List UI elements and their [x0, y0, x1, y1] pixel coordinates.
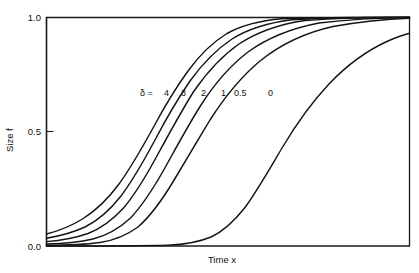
y-tick-label-1.0: 1.0 [28, 12, 41, 23]
curve-label-2: 2 [201, 88, 206, 98]
curve-label-4: 4 [164, 88, 169, 98]
y-tick-label-0.0: 0.0 [28, 241, 41, 252]
curve-label-0.5: 0.5 [234, 88, 247, 98]
x-axis-title-text: Time x [208, 254, 236, 265]
curve-label-delta-prefix: δ = [140, 88, 153, 98]
y-tick-marks [47, 18, 54, 247]
y-axis-title: Size f [4, 128, 15, 152]
curve-label-1: 1 [221, 88, 226, 98]
chart-figure: 1.0 0.5 0.0 Size f Time x δ = 4 3 2 1 [0, 0, 419, 273]
curve-group [47, 17, 410, 246]
y-tick-label-0.5: 0.5 [28, 126, 41, 137]
curve-label-0: 0 [268, 88, 273, 98]
curve-delta-2 [47, 17, 410, 241]
chart-svg: 1.0 0.5 0.0 Size f Time x δ = 4 3 2 1 [0, 0, 419, 273]
plot-frame [46, 17, 410, 247]
x-axis-title: Time x [208, 254, 236, 265]
curve-delta-0 [47, 33, 410, 246]
y-axis-title-text: Size f [4, 128, 15, 152]
curve-delta-4 [47, 17, 410, 234]
curve-label-3: 3 [181, 88, 186, 98]
